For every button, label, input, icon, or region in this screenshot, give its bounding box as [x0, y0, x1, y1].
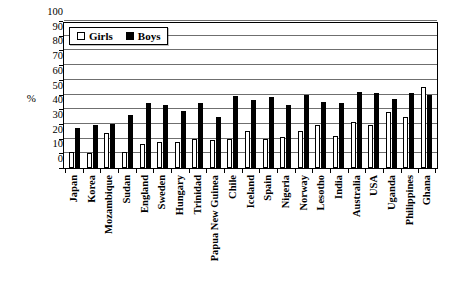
- bar-boys: [128, 115, 133, 168]
- x-axis-label-cell: Norway: [295, 175, 313, 287]
- x-axis-label-cell: Japan: [65, 175, 83, 287]
- x-axis-label-cell: Mozambique: [100, 175, 118, 287]
- bar-boys: [409, 93, 414, 168]
- bar-boys: [216, 117, 221, 168]
- bar-girls: [69, 152, 74, 168]
- x-axis-label-cell: Spain: [259, 175, 277, 287]
- bar-group: [207, 23, 225, 168]
- x-axis-tick-mark: [401, 169, 419, 174]
- x-axis-category-label: Spain: [263, 175, 273, 201]
- bar-boys: [93, 125, 98, 168]
- bar-girls: [157, 142, 162, 168]
- x-axis-tick-mark: [365, 169, 383, 174]
- legend-item: Girls: [77, 30, 113, 42]
- x-axis-category-label: Norway: [299, 175, 309, 211]
- bar-girls: [227, 139, 232, 168]
- bar-chart: % 1009080706050403020100 JapanKoreaMozam…: [0, 0, 457, 290]
- x-axis-category-label: India: [334, 175, 344, 199]
- bar-boys: [251, 100, 256, 168]
- x-axis-category-label: Nigeria: [281, 175, 291, 208]
- x-axis-category-label: Papua New Guinea: [210, 175, 220, 261]
- bar-group: [365, 23, 383, 168]
- bar-boys: [163, 105, 168, 168]
- x-axis-label-cell: Hungary: [171, 175, 189, 287]
- bar-group: [382, 23, 400, 168]
- bar-boys: [198, 103, 203, 168]
- bar-girls: [386, 112, 391, 168]
- bar-boys: [75, 128, 80, 168]
- bar-girls: [351, 122, 356, 168]
- x-axis-category-label: Uganda: [387, 175, 397, 210]
- x-axis-category-label: Hungary: [175, 175, 185, 215]
- bar-group: [259, 23, 277, 168]
- x-axis-category-label: Sweden: [157, 175, 167, 209]
- bar-girls: [403, 117, 408, 168]
- x-axis-tick-mark: [277, 169, 295, 174]
- x-axis-tick-mark: [295, 169, 313, 174]
- chart-legend: GirlsBoys: [69, 27, 168, 45]
- x-axis-tick-mark: [383, 169, 401, 174]
- bar-girls: [298, 131, 303, 168]
- x-axis-category-label: Chile: [228, 175, 238, 199]
- x-axis-label-cell: Chile: [224, 175, 242, 287]
- x-axis-label-cell: India: [330, 175, 348, 287]
- x-axis-label-cell: Iceland: [242, 175, 260, 287]
- bar-group: [277, 23, 295, 168]
- bar-girls: [368, 125, 373, 168]
- bar-group: [171, 23, 189, 168]
- x-axis-tick-mark: [206, 169, 224, 174]
- x-axis-tick-mark: [330, 169, 348, 174]
- bar-girls: [315, 125, 320, 168]
- legend-swatch-boys-icon: [126, 32, 134, 40]
- bar-boys: [321, 102, 326, 168]
- x-axis-category-label: USA: [369, 175, 379, 196]
- y-axis-tick-label: 100: [39, 7, 63, 17]
- x-axis-label-cell: Australia: [348, 175, 366, 287]
- x-axis-tick-mark: [118, 169, 136, 174]
- bar-girls: [122, 152, 127, 168]
- bar-boys: [110, 124, 115, 168]
- x-axis-tick-marks: [63, 169, 438, 174]
- bar-boys: [146, 103, 151, 168]
- bar-girls: [175, 142, 180, 168]
- x-axis-tick-mark: [171, 169, 189, 174]
- bar-group: [418, 23, 436, 168]
- legend-label: Girls: [89, 30, 113, 42]
- x-axis-label-cell: Sudan: [118, 175, 136, 287]
- legend-item: Boys: [126, 30, 161, 42]
- bar-boys: [357, 92, 362, 168]
- x-axis-category-label: Lesotho: [316, 175, 326, 211]
- x-axis-tick-mark: [418, 169, 436, 174]
- bar-boys: [286, 105, 291, 168]
- x-axis-label-cell: Trinidad: [189, 175, 207, 287]
- x-axis-category-label: England: [140, 175, 150, 213]
- bar-girls: [421, 87, 426, 168]
- bar-boys: [233, 96, 238, 168]
- x-axis-tick-mark: [242, 169, 260, 174]
- bar-group: [242, 23, 260, 168]
- x-axis-category-label: Korea: [87, 175, 97, 203]
- x-axis-tick-mark: [100, 169, 118, 174]
- bar-girls: [104, 133, 109, 168]
- x-axis-tick-mark: [136, 169, 154, 174]
- x-axis-label-cell: Philippines: [401, 175, 419, 287]
- x-axis-label-cell: Uganda: [383, 175, 401, 287]
- bar-group: [189, 23, 207, 168]
- bar-boys: [392, 99, 397, 168]
- bar-boys: [339, 103, 344, 168]
- x-axis-label-cell: Papua New Guinea: [206, 175, 224, 287]
- bar-girls: [263, 139, 268, 168]
- bar-group: [400, 23, 418, 168]
- gridline: [64, 20, 437, 21]
- x-axis-category-label: Philippines: [405, 175, 415, 225]
- bar-girls: [333, 136, 338, 168]
- x-axis-category-label: Australia: [352, 175, 362, 217]
- x-axis-category-labels: JapanKoreaMozambiqueSudanEnglandSwedenHu…: [63, 175, 438, 287]
- x-axis-label-cell: England: [136, 175, 154, 287]
- x-axis-category-label: Trinidad: [193, 175, 203, 215]
- x-axis-category-label: Mozambique: [104, 175, 114, 234]
- bar-girls: [140, 144, 145, 168]
- bar-group: [347, 23, 365, 168]
- bar-girls: [87, 153, 92, 168]
- bar-group: [330, 23, 348, 168]
